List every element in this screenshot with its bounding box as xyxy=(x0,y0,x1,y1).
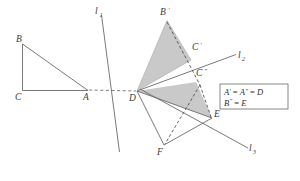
legend-line-1-eq-2: = xyxy=(248,87,257,97)
vertex-label-B: B xyxy=(16,34,22,44)
legend-line-1-eq-1: = xyxy=(231,87,240,97)
vertex-label-B-prime: B xyxy=(160,7,166,17)
vertex-label-C-dprime: C xyxy=(196,68,203,78)
vertex-label-C-prime: C xyxy=(192,42,199,52)
vertex-label-E: E xyxy=(213,109,220,119)
vertex-label-C-prime-mark: ' xyxy=(200,41,202,49)
legend-line-1: A' = A" = D xyxy=(223,87,264,98)
line-label-l3: l xyxy=(249,143,252,153)
line-label-l3-subscript: 3 xyxy=(252,149,256,155)
triangle-ABC-outline xyxy=(23,44,89,91)
vertex-label-D: D xyxy=(128,93,136,103)
line-label-l2: l xyxy=(238,50,241,60)
vertex-label-C: C xyxy=(15,92,22,102)
vertex-label-A: A xyxy=(82,92,89,102)
line-label-l2-subscript: 2 xyxy=(242,56,245,62)
shaded-triangle-A-prime-B-prime-C-prime xyxy=(137,21,191,92)
line-label-l1: l xyxy=(95,6,98,16)
geometry-figure: B C A B ' C ' C " D E F l 1 l 2 l 3 A' =… xyxy=(0,0,300,181)
line-label-l1-subscript: 1 xyxy=(100,12,103,18)
legend-line-2: B" = E xyxy=(224,97,247,108)
vertex-label-F: F xyxy=(156,147,163,157)
vertex-label-B-prime-mark: ' xyxy=(168,6,170,14)
legend-line-2-eq: = xyxy=(232,98,241,108)
legend-line-1-D: D xyxy=(256,87,264,97)
vertex-label-C-dprime-mark: " xyxy=(204,67,207,75)
line-l1 xyxy=(102,15,120,152)
legend-line-2-E: E xyxy=(240,98,247,108)
dashed-segment-A-to-D xyxy=(89,90,136,91)
